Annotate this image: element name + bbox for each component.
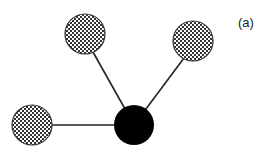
star-graph-diagram: (a) (0, 0, 272, 159)
leaf-node-top-right (173, 21, 213, 61)
figure-label: (a) (238, 15, 254, 30)
leaf-node-top-left (65, 14, 105, 54)
center-node (114, 105, 154, 145)
leaf-node-left (12, 105, 52, 145)
